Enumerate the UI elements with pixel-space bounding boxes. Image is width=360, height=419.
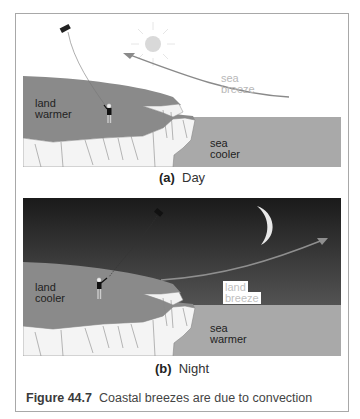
- panel-caption-day: (a) Day: [15, 170, 349, 185]
- panel-day: landwarmer seacooler seabreeze: [23, 20, 341, 167]
- day-illustration: [23, 20, 341, 167]
- panel-night: landcooler seawarmer land breeze: [23, 198, 341, 356]
- land-label: landwarmer: [35, 98, 72, 120]
- sea-label: seacooler: [210, 138, 240, 160]
- land-breeze-label: land breeze: [223, 282, 261, 304]
- panel-caption-night: (b) Night: [15, 361, 349, 376]
- sea-label: seawarmer: [210, 323, 247, 345]
- figure-caption-text: Coastal breezes are due to convection: [99, 391, 312, 405]
- night-illustration: [23, 198, 341, 356]
- sea: [173, 305, 341, 356]
- sea: [173, 117, 341, 167]
- land-label: landcooler: [35, 282, 65, 304]
- figure-number: Figure 44.7: [26, 391, 92, 405]
- figure-caption: Figure 44.7 Coastal breezes are due to c…: [26, 391, 312, 405]
- sea-breeze-label: seabreeze: [221, 73, 255, 95]
